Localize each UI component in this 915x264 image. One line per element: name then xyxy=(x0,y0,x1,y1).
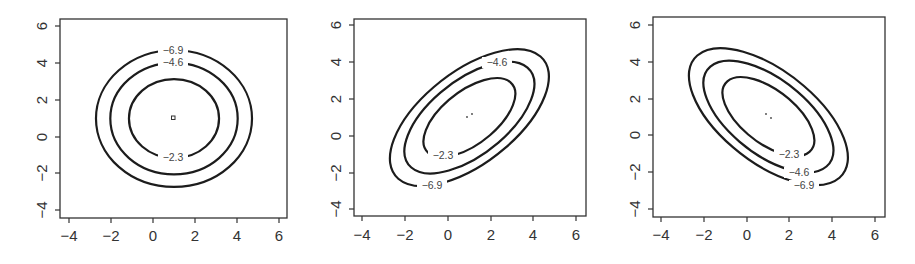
y-tick-label: 0 xyxy=(327,132,344,140)
y-tick-label: −2 xyxy=(327,164,344,181)
y-tick-label: −4 xyxy=(33,201,50,218)
y-tick-label: 2 xyxy=(33,96,50,104)
x-tick-label: −2 xyxy=(396,226,413,243)
plot-frame xyxy=(653,17,885,217)
x-tick-label: 6 xyxy=(275,227,283,244)
y-tick-label: 6 xyxy=(626,21,643,29)
contour-label: −4.6 xyxy=(789,166,810,178)
contour-level-2-3 xyxy=(129,79,219,158)
contour-level-6-9 xyxy=(96,50,252,187)
y-tick-label: 0 xyxy=(33,133,50,141)
x-tick-label: −4 xyxy=(60,227,77,244)
x-tick-label: 4 xyxy=(828,226,836,243)
contour-set xyxy=(662,25,875,208)
y-tick-label: 4 xyxy=(33,59,50,67)
contour-set xyxy=(96,50,252,187)
x-tick-label: −4 xyxy=(353,226,370,243)
center-dot xyxy=(471,113,473,115)
contour-label: −6.9 xyxy=(163,44,184,56)
contour-label: −2.3 xyxy=(433,149,454,161)
center-dot xyxy=(770,117,772,119)
y-tick-label: 4 xyxy=(327,58,344,66)
x-tick-label: 2 xyxy=(487,226,495,243)
y-tick-label: −2 xyxy=(33,164,50,181)
x-tick-label: 4 xyxy=(233,227,241,244)
x-tick-label: 2 xyxy=(785,226,793,243)
x-tick-label: 2 xyxy=(191,227,199,244)
y-tick-label: 2 xyxy=(626,95,643,103)
y-tick-label: 0 xyxy=(626,131,643,139)
y-tick-label: 6 xyxy=(33,22,50,30)
y-tick-label: −4 xyxy=(327,200,344,217)
y-axis: −4 −2 0 2 4 6 xyxy=(327,21,354,218)
contour-label: −2.3 xyxy=(779,148,800,160)
y-tick-label: 6 xyxy=(327,21,344,29)
x-tick-label: 6 xyxy=(871,226,879,243)
plot-frame xyxy=(354,19,586,216)
x-axis: −4 −2 0 2 4 6 xyxy=(353,216,580,243)
x-tick-label: 0 xyxy=(743,226,751,243)
x-tick-label: 0 xyxy=(444,226,452,243)
x-tick-label: 0 xyxy=(149,227,157,244)
center-square-marker xyxy=(172,116,176,120)
y-tick-label: −4 xyxy=(626,200,643,217)
contour-figure: −6.9 −4.6 −2.3 −4 −2 0 2 4 6 xyxy=(0,0,915,264)
contour-level-4-6 xyxy=(382,43,556,193)
contour-level-6-9 xyxy=(363,26,576,209)
contour-level-6-9 xyxy=(662,25,875,208)
x-tick-label: −4 xyxy=(652,226,669,243)
y-tick-label: 4 xyxy=(626,58,643,66)
contour-set xyxy=(363,26,576,209)
panel-1: −6.9 −4.6 −2.3 −4 −2 0 2 4 6 xyxy=(33,19,287,244)
panel-3: −2.3 −4.6 −6.9 −4 −2 0 2 4 6 −4 − xyxy=(626,17,885,243)
x-tick-label: 6 xyxy=(572,226,580,243)
contour-label: −4.6 xyxy=(487,56,508,68)
contour-label: −6.9 xyxy=(422,179,443,191)
x-axis: −4 −2 0 2 4 6 xyxy=(652,217,879,243)
y-tick-label: 2 xyxy=(327,95,344,103)
y-axis: −4 −2 0 2 4 6 xyxy=(33,22,60,219)
contour-level-2-3 xyxy=(408,65,531,171)
x-tick-label: −2 xyxy=(102,227,119,244)
center-dot xyxy=(765,113,767,115)
x-axis: −4 −2 0 2 4 6 xyxy=(60,218,283,244)
contour-level-2-3 xyxy=(707,64,830,170)
contour-label: −4.6 xyxy=(163,56,184,68)
contour-label: −2.3 xyxy=(163,151,184,163)
x-tick-label: 4 xyxy=(529,226,537,243)
y-axis: −4 −2 0 2 4 6 xyxy=(626,21,653,218)
x-tick-label: −2 xyxy=(695,226,712,243)
center-dot xyxy=(466,116,468,118)
contour-label: −6.9 xyxy=(794,179,815,191)
panel-2: −4.6 −2.3 −6.9 −4 −2 0 2 4 6 −4 − xyxy=(327,19,586,243)
y-tick-label: −2 xyxy=(626,163,643,180)
contour-level-4-6 xyxy=(681,42,855,192)
